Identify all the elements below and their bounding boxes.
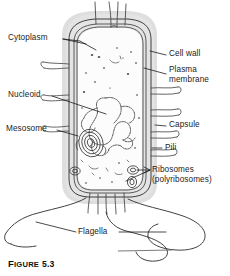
cytoplasm-region xyxy=(78,28,142,189)
label-capsule: Capsule xyxy=(169,120,200,130)
label-ribosomes-line2: (polyribosomes) xyxy=(152,175,212,185)
label-nucleoid: Nucleoid xyxy=(8,90,41,100)
label-cell-wall: Cell wall xyxy=(169,49,200,59)
figure-caption: FIGURE 5.3 xyxy=(8,258,55,269)
label-pili: Pili xyxy=(165,143,176,153)
leader-flagella xyxy=(36,222,76,232)
label-flagella: Flagella xyxy=(78,227,107,237)
figure-container: Cytoplasm Nucleoid Mesosome Cell wall Pl… xyxy=(0,0,230,276)
figure-caption-word: IGURE xyxy=(14,260,39,269)
label-mesosome: Mesosome xyxy=(6,124,47,134)
label-cytoplasm: Cytoplasm xyxy=(8,33,48,43)
label-plasma-membrane-line1: Plasma xyxy=(169,65,197,75)
label-plasma-membrane-line2: membrane xyxy=(169,75,209,85)
caption-rule xyxy=(118,250,172,251)
figure-caption-number: 5.3 xyxy=(42,259,55,269)
label-ribosomes-line1: Ribosomes xyxy=(152,165,194,175)
